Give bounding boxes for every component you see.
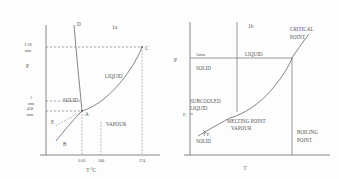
y-axis-label-left: P <box>26 63 29 69</box>
region-label-subcooled-2: LIQUID <box>190 105 208 111</box>
annotation-t-p1: T P₁ <box>203 132 211 137</box>
point-label-a: A <box>85 111 89 117</box>
vaporisation-curve-ac <box>82 47 142 111</box>
point-label-d: D <box>77 21 81 27</box>
supercooled-extension-ae <box>55 113 80 126</box>
triple-point-marker <box>81 110 83 112</box>
xtick-100: 100 <box>98 158 104 163</box>
annotation-boiling-2: POINT <box>297 137 313 143</box>
region-label-solid-left: SOLID <box>63 97 78 103</box>
region-label-solid-bottom: SOLID <box>196 138 211 144</box>
region-label-liquid-right: LIQUID <box>245 51 263 57</box>
chart-svg-1a: 1a P 2.18 atm 1 atm 458 mm 0.01 100 374 … <box>0 0 170 179</box>
region-label-liquid-left: LIQUID <box>105 73 123 79</box>
x-axis-label-left: T °C <box>86 167 96 173</box>
label-1atm: 1atm <box>196 52 206 57</box>
ytick-1atm-value: 1 <box>30 95 32 100</box>
phase-diagram-1a: 1a P 2.18 atm 1 atm 458 mm 0.01 100 374 … <box>0 0 170 179</box>
ytick-458-unit: mm <box>27 112 34 117</box>
chart-title-1b: 1b <box>248 23 254 29</box>
point-label-b: B <box>63 141 67 147</box>
sublimation-curve-ab <box>56 111 82 141</box>
figure-container: 1a P 2.18 atm 1 atm 458 mm 0.01 100 374 … <box>0 0 339 179</box>
region-label-subcooled-1: SUBCOOLED <box>190 98 221 104</box>
ytick-218-value: 2.18 <box>24 42 32 47</box>
region-label-solid-top: SOLID <box>196 65 211 71</box>
region-label-vapour-right: VAPOUR <box>231 125 252 131</box>
annotation-critical-1: CRITICAL <box>290 26 314 32</box>
annotation-melting-point: MELTING POINT <box>227 118 267 124</box>
ytick-458-value: 458 <box>27 106 33 111</box>
ytick-218-unit: atm <box>25 48 32 53</box>
x-axis-label-right: T <box>243 165 247 171</box>
xtick-374: 374 <box>139 158 146 163</box>
point-label-c: C <box>145 45 149 51</box>
critical-point-marker <box>141 46 143 48</box>
vaporisation-curve-right <box>230 34 309 118</box>
region-label-vapour-left: VAPOUR <box>106 121 127 127</box>
phase-diagram-1b: 1b P T 1atm P₁ LIQUID SOLID SUBCOOLED LI… <box>170 0 339 179</box>
annotation-boiling-1: BOILING <box>297 129 318 135</box>
chart-svg-1b: 1b P T 1atm P₁ LIQUID SOLID SUBCOOLED LI… <box>170 0 339 179</box>
label-p1: P₁ <box>183 112 188 117</box>
chart-title-1a: 1a <box>112 24 118 30</box>
point-label-e: E <box>51 119 54 125</box>
xtick-001: 0.01 <box>78 158 86 163</box>
y-axis-label-right: P <box>174 57 177 63</box>
annotation-critical-2: POINT <box>290 34 306 40</box>
